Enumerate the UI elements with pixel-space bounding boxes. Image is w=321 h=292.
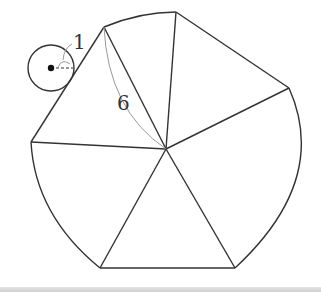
spoke-3: [166, 88, 289, 149]
bottom-divider-band: [0, 287, 321, 292]
arc-right: [235, 88, 301, 268]
radius-1-annotation-arc: [58, 62, 70, 67]
spoke-2: [166, 12, 176, 149]
label-radius-1: 1: [73, 32, 86, 52]
spoke-1: [104, 27, 166, 149]
small-circle-center-dot: [48, 65, 54, 71]
arc-left: [31, 142, 100, 268]
label-radius-6: 6: [117, 93, 130, 113]
diagram-canvas: [0, 0, 321, 292]
edge-top-right: [176, 12, 289, 88]
spoke-5: [100, 149, 166, 268]
spoke-6: [31, 142, 166, 149]
arc-top: [104, 12, 176, 27]
spoke-4: [166, 149, 235, 268]
